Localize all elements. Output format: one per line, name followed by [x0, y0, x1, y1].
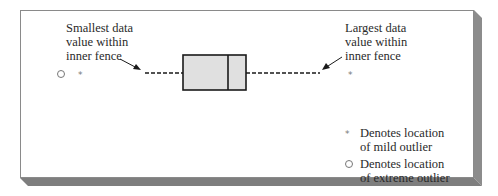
box-plot-diagram: Smallest data value within inner fence L… [0, 0, 498, 196]
smallest-label-line-2: value within [66, 35, 129, 49]
largest-label-line-3: inner fence [345, 49, 401, 63]
legend-extreme-line-2: of extreme outlier [360, 171, 450, 185]
largest-label-line-2: value within [345, 35, 408, 49]
iqr-box [183, 55, 246, 90]
mild-outlier-marker-right: * [348, 70, 353, 80]
smallest-label-line-1: Smallest data [66, 21, 133, 35]
largest-label-line-1: Largest data [345, 21, 407, 35]
legend-mild-symbol: * [345, 129, 350, 139]
legend-mild-line-2: of mild outlier [360, 140, 433, 154]
mild-outlier-marker-left: * [78, 70, 83, 80]
legend-extreme-line-1: Denotes location [360, 157, 445, 171]
smallest-label-line-3: inner fence [66, 49, 122, 63]
panel-shadow-right [474, 10, 482, 186]
legend-mild-line-1: Denotes location [360, 126, 445, 140]
